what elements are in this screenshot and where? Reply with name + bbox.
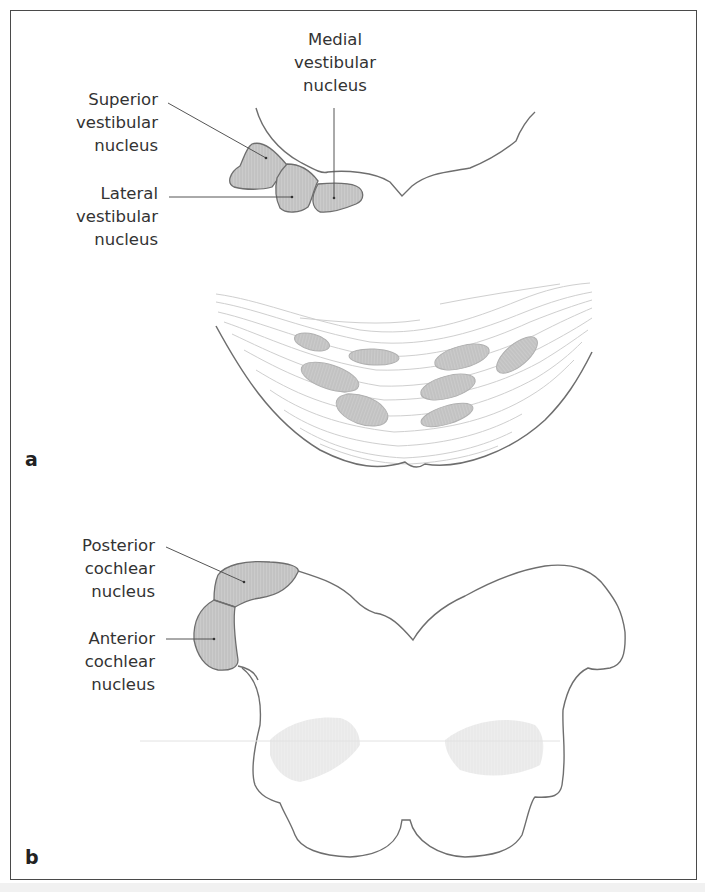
label-medial-vestibular-nucleus: Medial vestibular nucleus	[290, 28, 380, 97]
panel-letter-a: a	[25, 448, 38, 470]
panel-b-drawing	[140, 547, 625, 857]
pontine-nuclei	[293, 330, 544, 433]
medulla-outline	[242, 565, 625, 857]
label-posterior-cochlear-nucleus: Posterior cochlear nucleus	[55, 534, 155, 603]
inferior-olive-left	[270, 717, 360, 782]
label-lateral-vestibular-nucleus: Lateral vestibular nucleus	[60, 182, 158, 251]
panel-letter-b: b	[25, 846, 39, 868]
lateral-vestibular-nucleus	[276, 164, 318, 212]
panel-a-drawing	[168, 103, 592, 467]
label-anterior-cochlear-nucleus: Anterior cochlear nucleus	[55, 627, 155, 696]
inferior-olive-right	[445, 720, 543, 775]
label-superior-vestibular-nucleus: Superior vestibular nucleus	[60, 88, 158, 157]
medial-vestibular-nucleus	[313, 183, 363, 212]
anterior-cochlear-nucleus	[194, 600, 238, 670]
pontine-fibers	[216, 283, 592, 464]
posterior-cochlear-nucleus	[214, 562, 298, 607]
